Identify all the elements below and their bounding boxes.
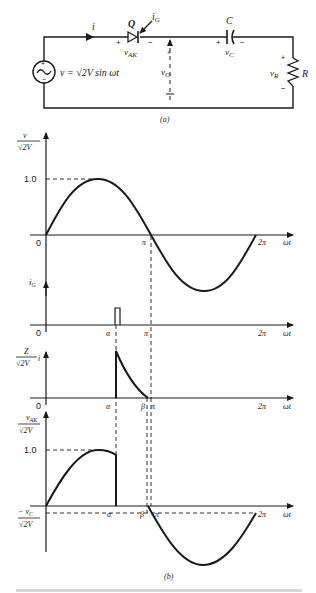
- y-label: iG: [29, 277, 37, 288]
- vak-minus: −: [148, 38, 153, 47]
- vo-arrow-icon: [167, 39, 173, 46]
- vc-label: vC: [225, 47, 234, 59]
- neg-level-label-den: √2V: [19, 520, 33, 529]
- x-tick-pi: π: [142, 238, 147, 247]
- current-curve: [116, 351, 148, 398]
- current-arrow-icon: [86, 33, 94, 41]
- sine-wave-icon: [37, 70, 51, 75]
- x-tick-0: 0: [36, 401, 41, 411]
- x-tick-0: 0: [36, 238, 41, 248]
- x-tick-alpha: α: [106, 402, 111, 411]
- y-label-num: v: [23, 131, 27, 140]
- figure-label-a: (a): [160, 115, 170, 124]
- y-label-den: √2V: [18, 143, 32, 152]
- y-tick-1: 1.0: [24, 174, 37, 184]
- x-tick-2pi: 2π: [258, 510, 267, 519]
- gate-arrow-icon: [140, 21, 152, 33]
- x-tick-pi: π: [144, 329, 149, 338]
- resistor-label: R: [301, 68, 308, 79]
- vc-plus: +: [216, 38, 221, 47]
- x-tick-2pi: 2π: [258, 238, 267, 247]
- x-label: ωt: [283, 238, 292, 247]
- x-tick-beta: β: [139, 510, 144, 519]
- chart-load-current: Z √2V i 0 α β π 2π ωt: [16, 347, 293, 411]
- x-label: ωt: [283, 329, 292, 338]
- y-label-num: Z: [24, 347, 29, 356]
- vak-label: vAK: [124, 47, 137, 59]
- x-tick-pi: π: [151, 402, 156, 411]
- vr-plus: +: [281, 54, 285, 61]
- capacitor-label: C: [226, 15, 233, 26]
- vr-label: vR: [270, 68, 279, 80]
- chart-gate-current: iG 0 α π 2π ωt: [29, 277, 293, 338]
- x-tick-pi: π: [155, 510, 160, 519]
- figure-canvas: i + − v = √2V sin ωt Q iG + − vAK + vO C…: [0, 0, 316, 593]
- y-label-den: √2V: [16, 359, 30, 368]
- x-tick-alpha: α: [107, 510, 112, 519]
- x-tick-0: 0: [36, 328, 41, 338]
- x-tick-2pi: 2π: [258, 402, 267, 411]
- circuit-diagram: i + − v = √2V sin ωt Q iG + − vAK + vO C…: [33, 11, 308, 124]
- gate-current-label: iG: [152, 11, 160, 24]
- source-minus: −: [42, 76, 46, 83]
- vo-label: vO: [161, 67, 170, 79]
- thyristor-icon: [128, 32, 137, 42]
- vr-minus: −: [281, 84, 286, 93]
- figure-label-b: (b): [164, 572, 174, 581]
- chart-vak: vAK √2V 1.0 − vC √2V α β π 2π ωt: [18, 412, 293, 565]
- x-tick-alpha: α: [106, 329, 111, 338]
- caption-blurred: [16, 589, 302, 592]
- neg-level-label-num: − vC: [18, 507, 34, 517]
- source-equation: v = √2V sin ωt: [60, 67, 119, 78]
- vo-plus: +: [167, 49, 171, 56]
- chart-source-voltage: v √2V 1.0 0 π 2π ωt: [17, 131, 293, 296]
- y-label-num: vAK: [26, 413, 38, 423]
- vak-plus: +: [116, 38, 121, 47]
- y-tick-1: 1.0: [24, 445, 37, 455]
- y-label-den: √2V: [19, 426, 33, 435]
- thyristor-label: Q: [128, 18, 135, 29]
- y-label-suffix: i: [38, 354, 40, 363]
- x-label: ωt: [283, 402, 292, 411]
- vak-curve-after-beta: [148, 506, 256, 565]
- current-label: i: [92, 21, 95, 32]
- gate-pulse: [115, 308, 120, 325]
- x-tick-2pi: 2π: [258, 329, 267, 338]
- x-tick-beta: β: [140, 402, 145, 411]
- resistor-icon: [288, 58, 298, 86]
- vak-curve-before-alpha: [46, 450, 116, 506]
- source-plus: +: [41, 60, 45, 67]
- vc-minus: −: [240, 38, 245, 47]
- x-label: ωt: [283, 510, 292, 519]
